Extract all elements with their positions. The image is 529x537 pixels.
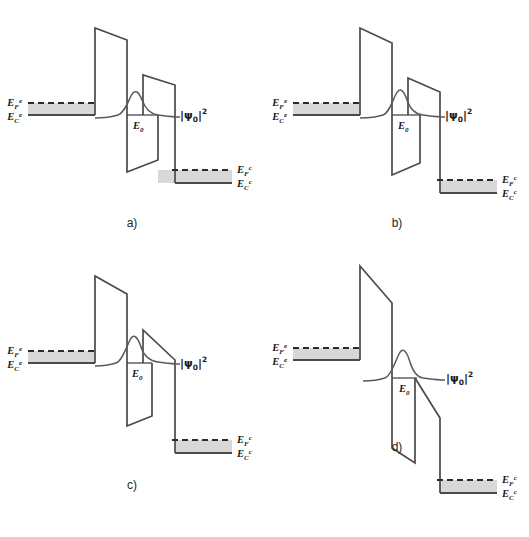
collector-conduction-label: ECc xyxy=(501,188,517,202)
wavefunction-label: |ψ0|2 xyxy=(180,355,207,372)
resonant-level-label: E0 xyxy=(131,368,143,382)
resonant-level-label: E0 xyxy=(132,120,144,134)
wavefunction-label: |ψ0|2 xyxy=(446,370,473,387)
panel-a: EFe ECe EFc ECc E0 |ψ0|2 a) xyxy=(0,0,264,268)
barrier-1-outline xyxy=(360,266,392,378)
band-diagram-figure: EFe ECe EFc ECc E0 |ψ0|2 a) xyxy=(0,0,529,537)
emitter-conduction-label: ECe xyxy=(271,111,287,125)
collector-electron-sea xyxy=(440,180,497,193)
quantum-well-outline xyxy=(392,115,420,175)
collector-fermi-label: EFc xyxy=(501,174,517,188)
collector-conduction-label: ECc xyxy=(236,448,252,462)
panel-c-caption: c) xyxy=(0,478,264,492)
collector-conduction-label: ECc xyxy=(236,178,252,192)
wavefunction-curve xyxy=(95,336,180,366)
quantum-well-outline xyxy=(127,115,158,172)
wavefunction-curve xyxy=(95,92,180,118)
barrier-1-outline xyxy=(360,28,392,115)
panel-b: EFe ECe EFc ECc E0 |ψ0|2 b) xyxy=(265,0,529,268)
barrier-1-outline xyxy=(95,276,127,363)
panel-b-caption: b) xyxy=(265,216,529,230)
resonant-level-label: E0 xyxy=(398,383,410,397)
collector-electron-sea xyxy=(175,440,232,453)
panel-d-caption: d) xyxy=(265,440,529,454)
resonant-level-label: E0 xyxy=(397,120,409,134)
barrier-2-outline xyxy=(415,378,440,493)
wavefunction-label: |ψ0|2 xyxy=(445,107,472,124)
quantum-well-outline xyxy=(127,363,152,426)
emitter-electron-sea xyxy=(28,103,95,115)
panel-d: EFe ECe EFc ECc E0 |ψ0|2 d) xyxy=(265,248,529,516)
emitter-fermi-label: EFe xyxy=(6,345,22,359)
emitter-conduction-label: ECe xyxy=(6,359,22,373)
collector-fermi-label: EFc xyxy=(236,434,252,448)
emitter-fermi-label: EFe xyxy=(6,97,22,111)
barrier-1-outline xyxy=(95,28,127,115)
emitter-fermi-label: EFe xyxy=(271,342,287,356)
collector-electron-sea xyxy=(158,170,232,183)
collector-fermi-label: EFc xyxy=(501,474,517,488)
collector-fermi-label: EFc xyxy=(236,164,252,178)
panel-a-caption: a) xyxy=(0,216,264,230)
wavefunction-label: |ψ0|2 xyxy=(180,107,207,124)
emitter-conduction-label: ECe xyxy=(6,111,22,125)
collector-conduction-label: ECc xyxy=(501,488,517,502)
emitter-electron-sea xyxy=(293,348,360,360)
barrier-2-outline xyxy=(408,78,440,193)
emitter-electron-sea xyxy=(293,103,360,115)
collector-electron-sea xyxy=(440,480,497,493)
emitter-conduction-label: ECe xyxy=(271,356,287,370)
barrier-2-outline xyxy=(143,330,175,453)
emitter-fermi-label: EFe xyxy=(271,97,287,111)
panel-c: EFe ECe EFc ECc E0 |ψ0|2 c) xyxy=(0,248,264,516)
wavefunction-curve xyxy=(363,350,445,381)
panel-d-diagram: EFe ECe EFc ECc E0 |ψ0|2 xyxy=(265,248,529,516)
emitter-electron-sea xyxy=(28,351,95,363)
barrier-2-outline xyxy=(143,75,175,183)
wavefunction-curve xyxy=(360,90,445,118)
panel-c-diagram: EFe ECe EFc ECc E0 |ψ0|2 xyxy=(0,248,264,516)
